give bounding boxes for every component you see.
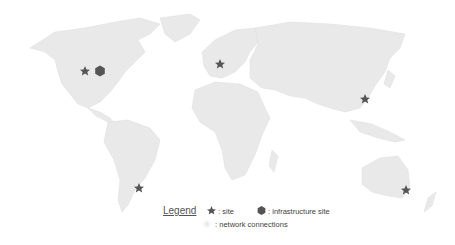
legend-item-network-connections: : network connections [201,218,288,230]
continent-asia [250,22,405,112]
star-icon [207,206,216,215]
legend-item-site: : site [207,206,234,216]
japan [384,70,395,88]
continent-south-america [104,120,160,212]
madagascar [269,150,278,172]
new-zealand [424,192,436,212]
continent-australia [362,156,410,198]
legend-title: Legend [163,205,196,216]
greenland [160,14,200,42]
southeast-asia-islands [350,120,405,142]
hexagon-icon [257,206,266,215]
glow-icon [201,218,213,230]
legend-item-infrastructure-site: : infrastructure site [257,206,330,216]
continent-africa [192,82,270,180]
continent-north-america [30,18,160,108]
